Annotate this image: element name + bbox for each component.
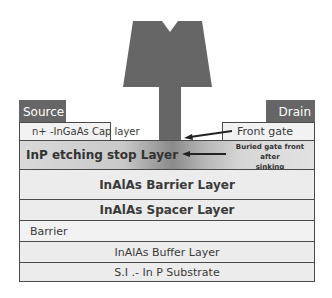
barrier-layer-label: InAlAs Barrier Layer (99, 178, 235, 192)
substrate-label: S.I .- In P Substrate (114, 266, 219, 279)
buried-gate-arrowhead-icon (182, 151, 190, 157)
front-gate-arrow (190, 131, 232, 137)
spacer-layer-label: InAlAs Spacer Layer (100, 203, 235, 217)
spacer-layer: InAlAs Spacer Layer (19, 199, 315, 221)
barrier-channel-layer: Barrier (19, 220, 315, 242)
substrate-layer: S.I .- In P Substrate (19, 262, 315, 282)
barrier-layer: InAlAs Barrier Layer (19, 169, 315, 200)
front-gate-arrowhead-icon (184, 134, 193, 140)
buffer-layer: InAlAs Buffer Layer (19, 241, 315, 263)
barrier-label: Barrier (30, 225, 68, 238)
buffer-layer-label: InAlAs Buffer Layer (114, 246, 219, 259)
